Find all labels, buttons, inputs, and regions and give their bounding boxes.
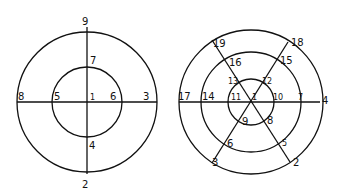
right-label-14: 14: [202, 91, 215, 102]
right-label-7: 7: [298, 93, 303, 102]
right-label-15: 15: [280, 55, 293, 66]
left-label-2: 2: [82, 179, 88, 190]
right-label-1: 1: [252, 93, 257, 102]
right-label-5: 5: [282, 139, 287, 148]
left-label-4: 4: [89, 140, 95, 151]
right-label-13: 13: [228, 77, 238, 86]
right-label-3: 3: [212, 157, 218, 168]
right-label-10: 10: [273, 93, 283, 102]
left-label-9: 9: [82, 16, 88, 27]
right-label-16: 16: [229, 57, 242, 68]
right-diagram: 19 18 16 15 13 12 17 14 11 1 10 7 4 9 8 …: [178, 30, 328, 174]
left-label-6: 6: [110, 91, 116, 102]
diagram-canvas: 9 7 8 5 1 6 3 4 2 19 18 16 15 13 12 17 1…: [0, 0, 346, 196]
right-label-12: 12: [262, 77, 272, 86]
right-label-19: 19: [213, 38, 226, 49]
right-label-8: 8: [267, 115, 273, 126]
right-label-2: 2: [293, 157, 299, 168]
left-label-7: 7: [90, 55, 96, 66]
left-label-3: 3: [143, 91, 149, 102]
left-label-5: 5: [54, 91, 60, 102]
right-label-17: 17: [178, 91, 191, 102]
right-label-18: 18: [291, 37, 304, 48]
left-label-1: 1: [90, 93, 95, 102]
left-diagram: 9 7 8 5 1 6 3 4 2: [17, 16, 157, 190]
right-label-9: 9: [242, 116, 248, 127]
right-label-11: 11: [231, 93, 241, 102]
right-label-4: 4: [322, 95, 328, 106]
right-label-6: 6: [227, 138, 233, 149]
left-label-8: 8: [18, 91, 24, 102]
